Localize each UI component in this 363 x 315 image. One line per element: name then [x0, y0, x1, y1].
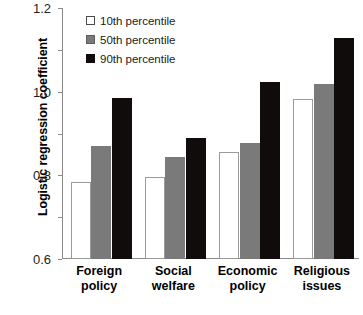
y-tick-label: 0.8 [33, 168, 51, 183]
legend-label-p90: 90th percentile [100, 53, 175, 65]
chart-legend: 10th percentile 50th percentile 90th per… [86, 11, 175, 68]
bar [91, 146, 111, 259]
legend-label-p50: 50th percentile [100, 34, 175, 46]
bar [240, 143, 260, 259]
bar [165, 157, 185, 259]
gray-square-icon [86, 35, 95, 44]
y-tick-mark: 0.2 [58, 217, 62, 218]
category-label-line: welfare [136, 279, 210, 294]
black-square-icon [86, 54, 95, 63]
y-tick-label: 1.2 [33, 1, 51, 16]
y-axis-title: Logistic regression coefficient [36, 12, 50, 242]
legend-item-p90: 90th percentile [86, 49, 175, 68]
y-tick-mark: 0.6 [58, 134, 62, 135]
legend-item-p10: 10th percentile [86, 11, 175, 30]
category-label-line: issues [285, 279, 359, 294]
category-label-line: Foreign [62, 264, 136, 279]
category-label-line: Social [136, 264, 210, 279]
bar [314, 84, 334, 259]
bar [293, 99, 313, 259]
white-square-icon [86, 16, 95, 25]
bar-group [293, 8, 354, 259]
x-axis-category-label: Economicpolicy [211, 264, 285, 294]
y-tick-mark: 1.0 [58, 50, 62, 51]
category-label-line: policy [62, 279, 136, 294]
legend-item-p50: 50th percentile [86, 30, 175, 49]
bar [186, 138, 206, 259]
bar [260, 82, 280, 259]
bar [334, 38, 354, 259]
y-tick-mark: 0.8 [58, 92, 62, 93]
x-axis-category-label: Foreignpolicy [62, 264, 136, 294]
category-label-line: policy [211, 279, 285, 294]
y-tick-label: 1.0 [33, 84, 51, 99]
bar [219, 152, 239, 259]
y-tick-label: 0.6 [33, 252, 51, 267]
category-label-line: Economic [211, 264, 285, 279]
y-tick-mark: 1.2 [58, 8, 62, 9]
legend-label-p10: 10th percentile [100, 15, 175, 27]
y-tick-mark: 0.0 [58, 259, 62, 260]
x-axis-category-label: Socialwelfare [136, 264, 210, 294]
bar-chart: Logistic regression coefficient 0.00.20.… [0, 0, 363, 315]
bar [71, 182, 91, 259]
category-label-line: Religious [285, 264, 359, 279]
bar [112, 98, 132, 259]
y-tick-mark: 0.4 [58, 175, 62, 176]
y-axis-line [62, 8, 63, 259]
bar-group [219, 8, 280, 259]
x-axis-category-label: Religiousissues [285, 264, 359, 294]
bar [145, 177, 165, 259]
